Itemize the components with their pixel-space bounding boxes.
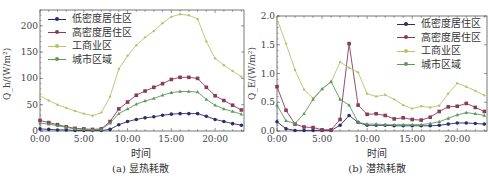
- chart-panel-sensible: 0:005:0010:0015:0020:00050100150200 Q_h/…: [0, 0, 245, 181]
- y-tick-label: 1.5: [261, 40, 276, 50]
- legend-item: 高密度居住区: [397, 31, 481, 45]
- legend-item: 工商业区: [397, 44, 481, 58]
- y-tick-label: 0.0: [261, 126, 276, 136]
- legend-swatch-icon: [48, 42, 66, 50]
- x-tick-label: 5:00: [74, 134, 94, 144]
- legend-item: 城市区域: [397, 58, 481, 72]
- chart-caption: (a) 显热耗散: [18, 160, 263, 175]
- series-line: [38, 90, 243, 132]
- y-tick-label: 0: [32, 126, 38, 136]
- y-tick-label: 150: [21, 47, 38, 57]
- x-axis-label: 时间: [255, 145, 489, 160]
- y-tick-label: 1.0: [261, 69, 276, 79]
- x-tick-label: 20:00: [444, 134, 470, 144]
- legend-swatch-icon: [48, 28, 66, 36]
- legend-swatch-icon: [48, 55, 66, 63]
- y-axis-label: Q_E/(W/m²): [247, 47, 257, 100]
- legend-label: 城市区域: [72, 53, 112, 67]
- legend-swatch-icon: [397, 33, 415, 41]
- legend-label: 城市区域: [421, 58, 461, 72]
- legend-swatch-icon: [397, 20, 415, 28]
- legend-swatch-icon: [397, 47, 415, 55]
- y-tick-label: 2.0: [261, 11, 276, 21]
- x-tick-label: 15:00: [399, 134, 425, 144]
- y-tick-label: 50: [27, 100, 39, 110]
- y-tick-label: 100: [21, 73, 38, 83]
- legend-label: 低密度居住区: [421, 17, 481, 31]
- chart-caption: (b) 潜热耗散: [255, 160, 489, 175]
- x-tick-label: 10:00: [354, 134, 380, 144]
- legend-swatch-icon: [397, 60, 415, 68]
- x-tick-label: 15:00: [158, 134, 184, 144]
- legend-item: 工商业区: [48, 39, 132, 53]
- y-tick-label: 200: [21, 21, 38, 31]
- x-tick-label: 20:00: [202, 134, 228, 144]
- series-line: [38, 112, 243, 132]
- y-axis-label: Q_h/(W/m²): [2, 48, 12, 100]
- x-axis-label: 时间: [18, 145, 263, 160]
- y-tick-label: 0.5: [261, 97, 276, 107]
- legend-item: 低密度居住区: [397, 17, 481, 31]
- legend-item: 低密度居住区: [48, 12, 132, 26]
- x-tick-label: 5:00: [312, 134, 332, 144]
- legend-label: 高密度居住区: [72, 26, 132, 40]
- legend-label: 工商业区: [421, 44, 461, 58]
- chart-panel-latent: 0:005:0010:0015:0020:000.00.51.01.52.0 Q…: [245, 0, 489, 181]
- legend: 低密度居住区高密度居住区工商业区城市区域: [48, 12, 132, 66]
- legend-label: 工商业区: [72, 39, 112, 53]
- legend-label: 高密度居住区: [421, 31, 481, 45]
- legend-item: 城市区域: [48, 53, 132, 67]
- legend: 低密度居住区高密度居住区工商业区城市区域: [397, 17, 481, 71]
- series-line: [275, 114, 486, 133]
- legend-item: 高密度居住区: [48, 26, 132, 40]
- legend-label: 低密度居住区: [72, 12, 132, 26]
- legend-swatch-icon: [48, 15, 66, 23]
- x-tick-label: 10:00: [115, 134, 141, 144]
